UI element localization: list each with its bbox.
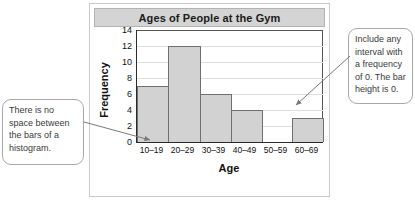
histogram-figure-panel: Ages of People at the Gym Frequency 14 1… — [89, 3, 330, 197]
plot-area — [136, 30, 323, 143]
y-ticklabel: 10 — [112, 57, 132, 67]
y-ticklabel: 14 — [112, 25, 132, 35]
callout-no-space-between-bars: There is no space between the bars of a … — [2, 99, 84, 165]
y-ticklabel: 4 — [112, 105, 132, 115]
y-axis-title: Frequency — [98, 52, 110, 128]
y-ticklabel: 12 — [112, 41, 132, 51]
histogram-bar — [200, 94, 232, 142]
histogram-bar — [292, 118, 324, 142]
callout-zero-frequency-interval: Include any interval with a frequency of… — [348, 28, 413, 104]
x-ticklabel: 20–29 — [167, 145, 198, 155]
x-ticklabel: 60–69 — [291, 145, 322, 155]
y-axis-ticklabels: 14 12 10 8 6 4 2 0 — [112, 30, 132, 142]
y-ticklabel: 2 — [112, 121, 132, 131]
chart-title: Ages of People at the Gym — [139, 12, 281, 24]
y-ticklabel: 6 — [112, 89, 132, 99]
x-ticklabel: 30–39 — [198, 145, 229, 155]
x-ticklabel: 10–19 — [136, 145, 167, 155]
histogram-bar — [137, 86, 169, 142]
plot-wrap: Frequency 14 12 10 8 6 4 2 0 10–19 20–29 — [90, 30, 331, 198]
histogram-bar — [168, 46, 200, 142]
x-axis-title: Age — [136, 162, 322, 174]
x-ticklabel: 50–59 — [260, 145, 291, 155]
x-axis-ticklabels: 10–19 20–29 30–39 40–49 50–59 60–69 — [136, 145, 322, 155]
y-ticklabel: 0 — [112, 137, 132, 147]
y-ticklabel: 8 — [112, 73, 132, 83]
histogram-bars — [137, 30, 323, 142]
histogram-bar — [231, 110, 263, 142]
x-ticklabel: 40–49 — [229, 145, 260, 155]
